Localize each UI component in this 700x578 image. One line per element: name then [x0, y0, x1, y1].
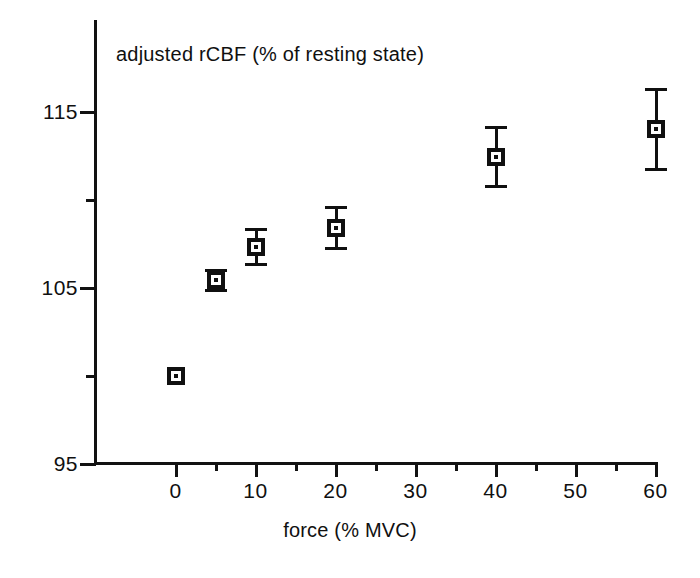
x-axis-tick-major [415, 462, 418, 477]
y-axis-tick-major [80, 111, 96, 114]
data-point-marker [327, 219, 345, 237]
x-axis-tick-major [175, 462, 178, 477]
y-axis-tick-label: 115 [16, 101, 78, 122]
x-axis-tick-major [495, 462, 498, 477]
error-bar-cap-bottom [325, 247, 347, 250]
chart-title: adjusted rCBF (% of resting state) [116, 42, 424, 66]
y-axis-tick-label-wrap: 115 [0, 101, 78, 122]
x-axis-tick-label: 20 [306, 479, 366, 503]
x-axis-tick-label: 30 [386, 479, 446, 503]
data-point-marker [647, 120, 665, 138]
x-axis-tick-minor [535, 462, 538, 471]
y-axis-tick-label: 95 [16, 453, 78, 474]
x-axis-title: force (% MVC) [0, 518, 700, 542]
y-axis-tick-label-wrap: 105 [0, 277, 78, 298]
error-bar-cap-top [485, 126, 507, 129]
x-axis-tick-label: 0 [146, 479, 206, 503]
x-axis-tick-minor [295, 462, 298, 471]
y-axis-line [94, 20, 97, 465]
data-point-marker [487, 148, 505, 166]
error-bar-cap-top [645, 88, 667, 91]
y-axis-tick-major [80, 463, 96, 466]
error-bar-cap-bottom [485, 185, 507, 188]
data-point-marker [207, 271, 225, 289]
x-axis-tick-minor [215, 462, 218, 471]
y-axis-tick-label: 105 [16, 277, 78, 298]
x-axis-tick-label: 40 [466, 479, 526, 503]
data-point-marker [167, 367, 185, 385]
x-axis-tick-minor [375, 462, 378, 471]
y-axis-tick-minor [86, 375, 96, 378]
error-bar-cap-bottom [245, 263, 267, 266]
y-axis-tick-major [80, 287, 96, 290]
x-axis-tick-label: 60 [626, 479, 686, 503]
error-bar-cap-top [245, 228, 267, 231]
x-axis-tick-minor [455, 462, 458, 471]
x-axis-tick-major [575, 462, 578, 477]
x-axis-tick-label: 10 [226, 479, 286, 503]
x-axis-tick-major [255, 462, 258, 477]
data-point-marker [247, 238, 265, 256]
plot-area: 951051150102030405060 adjusted rCBF (% o… [0, 0, 700, 578]
x-axis-tick-label: 50 [546, 479, 606, 503]
y-axis-tick-label-wrap: 95 [0, 453, 78, 474]
error-bar-cap-bottom [645, 168, 667, 171]
y-axis-tick-minor [86, 199, 96, 202]
x-axis-tick-major [335, 462, 338, 477]
x-axis-tick-major [655, 462, 658, 477]
x-axis-tick-minor [615, 462, 618, 471]
chart-figure: 951051150102030405060 adjusted rCBF (% o… [0, 0, 700, 578]
error-bar-cap-top [325, 206, 347, 209]
